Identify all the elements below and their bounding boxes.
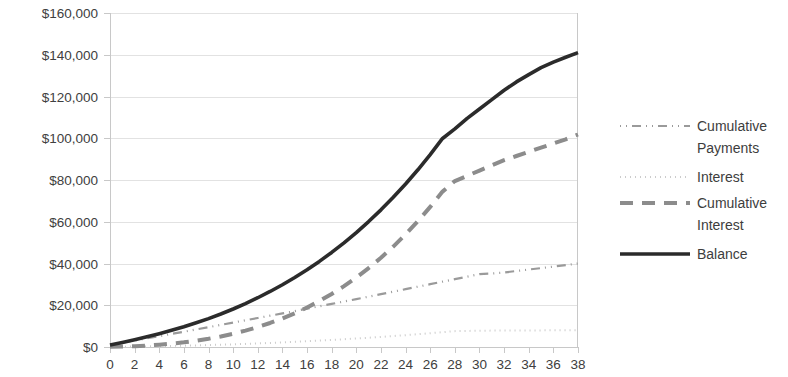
x-axis-label-30: 30 xyxy=(472,357,487,372)
x-axis-label-14: 14 xyxy=(275,357,291,372)
x-axis-label-2: 2 xyxy=(131,357,139,372)
x-axis-label-10: 10 xyxy=(226,357,241,372)
legend-label-cumulative-interest: Cumulative xyxy=(697,195,767,211)
y-axis-label-5: $100,000 xyxy=(42,131,98,146)
x-axis-label-8: 8 xyxy=(205,357,213,372)
y-axis-label-4: $80,000 xyxy=(49,173,98,188)
x-axis-label-12: 12 xyxy=(250,357,265,372)
x-axis-label-34: 34 xyxy=(521,357,537,372)
x-axis-label-4: 4 xyxy=(156,357,164,372)
x-axis-label-16: 16 xyxy=(300,357,315,372)
y-axis-label-0: $0 xyxy=(83,340,98,355)
line-chart: $0$20,000$40,000$60,000$80,000$100,000$1… xyxy=(0,0,788,377)
chart-container: $0$20,000$40,000$60,000$80,000$100,000$1… xyxy=(0,0,788,377)
x-axis-label-32: 32 xyxy=(497,357,512,372)
legend-label-cumulative-payments: Payments xyxy=(697,140,759,156)
y-axis-label-6: $120,000 xyxy=(42,90,98,105)
y-axis-label-7: $140,000 xyxy=(42,48,98,63)
legend-label-interest: Interest xyxy=(697,169,744,185)
x-axis-label-18: 18 xyxy=(324,357,339,372)
y-axis-label-2: $40,000 xyxy=(49,257,98,272)
x-axis-label-26: 26 xyxy=(423,357,438,372)
legend-label-balance: Balance xyxy=(697,246,748,262)
chart-background xyxy=(0,0,788,377)
x-axis-label-20: 20 xyxy=(349,357,364,372)
x-axis-label-0: 0 xyxy=(106,357,114,372)
x-axis-label-38: 38 xyxy=(570,357,585,372)
y-axis-label-8: $160,000 xyxy=(42,6,98,21)
x-axis-label-24: 24 xyxy=(398,357,414,372)
y-axis-label-1: $20,000 xyxy=(49,298,98,313)
x-axis-label-6: 6 xyxy=(180,357,188,372)
legend-label-cumulative-interest: Interest xyxy=(697,217,744,233)
y-axis-tick-labels: $0$20,000$40,000$60,000$80,000$100,000$1… xyxy=(42,6,98,355)
x-axis-label-28: 28 xyxy=(447,357,462,372)
x-axis-label-22: 22 xyxy=(373,357,388,372)
y-axis-label-3: $60,000 xyxy=(49,215,98,230)
x-axis-label-36: 36 xyxy=(546,357,561,372)
legend-label-cumulative-payments: Cumulative xyxy=(697,118,767,134)
